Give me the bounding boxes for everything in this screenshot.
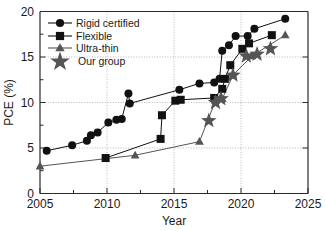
legend-label-3: Our group (78, 55, 125, 67)
data-point-circle (43, 147, 51, 155)
data-point-circle (126, 99, 134, 107)
x-tick-label-2015: 2015 (161, 197, 188, 211)
data-point-square (177, 96, 185, 104)
pce-vs-year-chart: 0 5 10 15 20 2005 2010 2015 2020 2025 Ye… (0, 0, 325, 231)
data-point-square (218, 85, 226, 93)
data-point-circle (225, 41, 233, 49)
x-tick-label-2010: 2010 (94, 197, 121, 211)
y-tick-label-5: 5 (27, 141, 34, 155)
y-axis-title: PCE (%) (2, 79, 16, 126)
circle-marker-icon (56, 19, 64, 27)
square-marker-icon (56, 32, 64, 40)
data-point-circle (250, 25, 258, 33)
data-point-circle (104, 119, 112, 127)
data-point-square (157, 135, 165, 143)
legend-label-2: Ultra-thin (76, 42, 119, 54)
data-point-circle (175, 86, 183, 94)
data-point-circle (195, 79, 203, 87)
x-tick-label-2005: 2005 (27, 197, 54, 211)
y-tick-label-20: 20 (21, 5, 35, 19)
chart-svg: 0 5 10 15 20 2005 2010 2015 2020 2025 Ye… (0, 0, 325, 231)
y-tick-label-15: 15 (21, 50, 35, 64)
data-point-circle (118, 115, 126, 123)
x-tick-label-2025: 2025 (295, 197, 322, 211)
x-tick-label-2020: 2020 (228, 197, 255, 211)
data-point-circle (68, 141, 76, 149)
legend-label-1: Flexible (76, 30, 112, 42)
data-point-square (221, 75, 229, 83)
legend-label-0: Rigid certified (76, 17, 140, 29)
data-point-square (158, 111, 166, 119)
x-axis-title: Year (162, 214, 186, 228)
data-point-square (102, 154, 110, 162)
data-point-square (245, 39, 253, 47)
data-point-circle (124, 89, 132, 97)
data-point-square (268, 31, 276, 39)
data-point-circle (281, 15, 289, 23)
data-point-circle (94, 129, 102, 137)
y-tick-label-10: 10 (21, 96, 35, 110)
data-point-circle (232, 32, 240, 40)
data-point-circle (244, 32, 252, 40)
data-point-circle (218, 47, 226, 55)
